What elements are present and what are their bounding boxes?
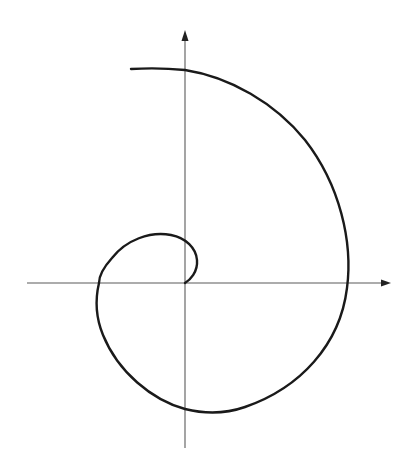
- spiral-curve: [97, 68, 349, 412]
- y-axis-arrow-icon: [182, 30, 189, 41]
- x-axis-arrow-icon: [381, 280, 391, 287]
- spiral-diagram: [0, 0, 407, 474]
